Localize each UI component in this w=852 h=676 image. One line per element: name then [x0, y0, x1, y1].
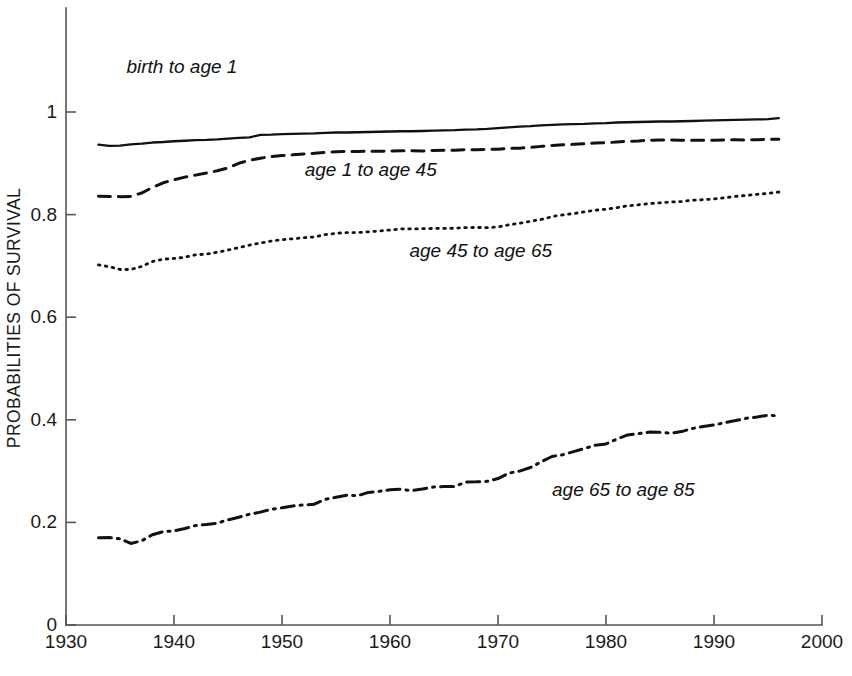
x-axis-tick-label: 1930	[45, 631, 87, 652]
series-label-2: age 1 to age 45	[305, 159, 437, 180]
axes: 00.20.40.60.8119301940195019601970198019…	[31, 8, 844, 652]
y-axis-tick-label: 1	[46, 101, 57, 122]
x-axis-tick-label: 1990	[693, 631, 735, 652]
x-axis-tick-label: 2000	[801, 631, 843, 652]
x-axis-tick-label: 1970	[477, 631, 519, 652]
y-axis-tick-label: 0.6	[31, 306, 57, 327]
survival-probabilities-chart: 00.20.40.60.8119301940195019601970198019…	[0, 0, 852, 676]
series-label-4: age 65 to age 85	[552, 479, 695, 500]
x-axis-tick-label: 1950	[261, 631, 303, 652]
series-label-1: birth to age 1	[126, 56, 237, 77]
x-axis-tick-label: 1980	[585, 631, 627, 652]
series-line-2	[98, 139, 778, 196]
chart-canvas: 00.20.40.60.8119301940195019601970198019…	[0, 0, 852, 676]
y-axis-tick-label: 0.4	[31, 409, 58, 430]
x-axis-tick-label: 1960	[369, 631, 411, 652]
x-axis-tick-label: 1940	[153, 631, 195, 652]
axis-titles: PROBABILITIES OF SURVIVAL	[4, 188, 24, 448]
series-label-3: age 45 to age 65	[409, 240, 552, 261]
y-axis-tick-label: 0.8	[31, 204, 57, 225]
series-line-1	[98, 118, 778, 146]
y-axis-title: PROBABILITIES OF SURVIVAL	[4, 188, 24, 448]
y-axis-tick-label: 0.2	[31, 511, 57, 532]
